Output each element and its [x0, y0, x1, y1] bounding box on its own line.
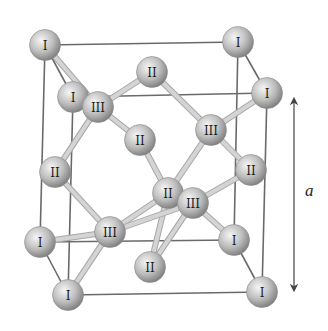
atom-label: III — [186, 197, 200, 211]
lattice-constant-arrow: a — [294, 101, 314, 288]
atom-site-II: II — [135, 252, 166, 283]
atom-site-I: I — [25, 227, 56, 258]
atom-label: II — [50, 166, 60, 180]
atom-site-II: II — [40, 157, 71, 188]
atom-site-I: I — [223, 27, 254, 58]
atom-site-I: I — [30, 30, 61, 61]
cube-edge — [68, 292, 262, 295]
atom-label: II — [135, 134, 145, 148]
atom-label: II — [163, 187, 173, 201]
cube-edge — [68, 97, 73, 295]
atom-label: III — [103, 226, 117, 240]
atom-site-I: I — [219, 225, 250, 256]
atom-site-III: III — [95, 217, 126, 248]
atom-site-II: II — [236, 155, 267, 186]
atom-label: I — [260, 286, 265, 300]
crystal-structure-diagram: IIIIIIIIIIIIIIIIIIIIIIIIIIIIIIII a — [0, 0, 328, 331]
atom-label: II — [246, 164, 256, 178]
unit-cell-svg: IIIIIIIIIIIIIIIIIIIIIIIIIIIIIIII a — [0, 0, 328, 331]
cube-edge — [234, 42, 238, 240]
atom-site-I: I — [53, 280, 84, 311]
atom-site-I: I — [247, 277, 278, 308]
atom-label: I — [265, 87, 270, 101]
atom-site-II: II — [125, 125, 156, 156]
atom-site-III: III — [178, 188, 209, 219]
atom-label: II — [145, 261, 155, 275]
atom-label: III — [91, 101, 105, 115]
lattice-constant-label: a — [305, 181, 314, 200]
atom-label: I — [236, 36, 241, 50]
cube-edge — [45, 42, 238, 45]
atom-label: I — [38, 236, 43, 250]
atom-site-III: III — [83, 92, 114, 123]
atom-label: I — [232, 234, 237, 248]
cube-edge — [40, 45, 45, 242]
atom-label: III — [204, 124, 218, 138]
atom-site-I: I — [252, 78, 283, 109]
atom-label: I — [66, 289, 71, 303]
atom-site-III: III — [196, 115, 227, 146]
atom-label: I — [71, 91, 76, 105]
cube-edge — [262, 93, 267, 292]
atom-label: II — [147, 66, 157, 80]
atom-label: I — [43, 39, 48, 53]
atom-site-II: II — [137, 57, 168, 88]
